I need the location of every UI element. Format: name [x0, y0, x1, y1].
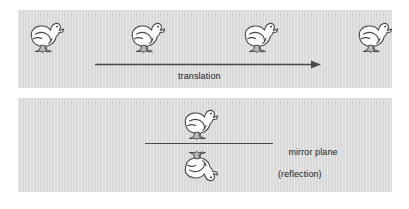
- mirror-plane-label: mirror plane (reflection): [278, 136, 338, 202]
- duck-illustration-reflected: [176, 146, 220, 190]
- mirror-plane-label-line1: mirror plane: [288, 147, 337, 157]
- duck-illustration-4: [350, 14, 394, 58]
- symmetry-operations-figure: translation: [0, 0, 409, 209]
- duck-illustration-1: [22, 14, 66, 58]
- duck-illustration-original: [176, 101, 220, 145]
- translation-label: translation: [178, 71, 221, 82]
- duck-illustration-3: [236, 14, 280, 58]
- duck-illustration-2: [123, 14, 167, 58]
- translation-arrow-icon: [95, 60, 321, 69]
- mirror-plane-line: [145, 143, 273, 144]
- mirror-plane-label-line2: (reflection): [278, 169, 338, 180]
